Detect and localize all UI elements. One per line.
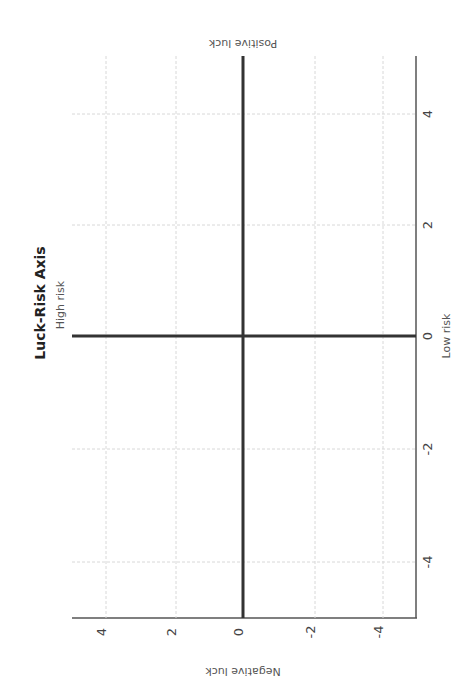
tick-label: 0 xyxy=(231,628,246,636)
high-risk-label: High risk xyxy=(54,280,67,329)
tick-label: -2 xyxy=(420,443,435,456)
negative-luck-label: Negative luck xyxy=(205,665,281,678)
tick-label: 2 xyxy=(420,221,435,229)
tick-label: -4 xyxy=(420,556,435,569)
low-risk-label: Low risk xyxy=(440,313,453,358)
tick-label: 4 xyxy=(94,628,109,636)
luck-risk-chart: 4 2 0 -2 -4 4 2 0 -2 -4 Negative luck Po… xyxy=(0,0,470,691)
tick-label: -4 xyxy=(371,626,386,639)
positive-luck-label: Positive luck xyxy=(208,37,277,50)
tick-label: 4 xyxy=(420,110,435,118)
tick-label: 2 xyxy=(164,628,179,636)
tick-label: -2 xyxy=(303,626,318,639)
right-tick-labels: 4 2 0 -2 -4 xyxy=(420,110,435,569)
chart-title: Luck-Risk Axis xyxy=(32,246,48,359)
bottom-tick-labels: 4 2 0 -2 -4 xyxy=(94,626,386,639)
tick-label: 0 xyxy=(420,332,435,340)
